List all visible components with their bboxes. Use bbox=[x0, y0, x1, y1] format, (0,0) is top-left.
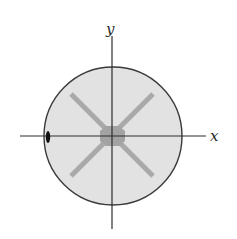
disk-diagram: y x bbox=[0, 0, 237, 239]
edge-marker bbox=[46, 131, 50, 143]
x-axis-label: x bbox=[210, 127, 219, 145]
y-axis-label: y bbox=[105, 20, 115, 38]
